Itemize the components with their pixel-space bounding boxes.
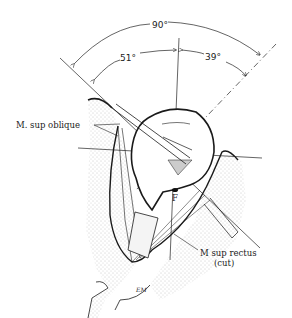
fovea-label: F xyxy=(172,193,178,203)
angle-arcs xyxy=(74,22,260,80)
artist-signature: EM xyxy=(135,286,147,293)
fovea-mark xyxy=(172,188,178,192)
angle-90-label: 90° xyxy=(152,20,168,30)
eye-muscle-diagram: 90° 51° 39° F M. sup oblique M sup rectu… xyxy=(0,0,292,318)
sup-rectus-label: M sup rectus xyxy=(200,248,257,258)
sup-oblique-label: M. sup oblique xyxy=(16,120,80,130)
sup-rectus-cut-label: (cut) xyxy=(214,258,234,268)
angle-51-label: 51° xyxy=(120,53,136,63)
angle-39-label: 39° xyxy=(205,52,221,62)
